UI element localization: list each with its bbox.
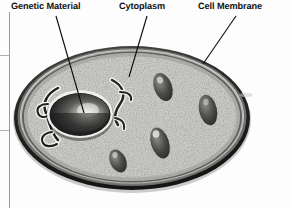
cell-diagram-figure: Genetic Material Cytoplasm Cell Membrane [0, 0, 290, 208]
label-cell-membrane: Cell Membrane [198, 2, 262, 11]
page-margin-rule [0, 12, 10, 208]
leader-cell-membrane [203, 16, 236, 64]
label-cytoplasm: Cytoplasm [119, 2, 165, 11]
label-genetic-material: Genetic Material [11, 2, 80, 11]
